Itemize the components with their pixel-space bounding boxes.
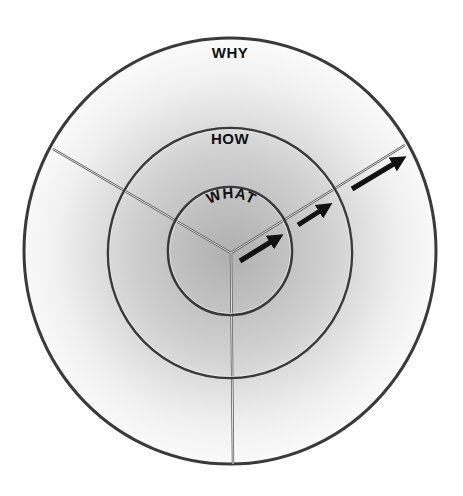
golden-circle-diagram: WHY HOW WHAT <box>0 0 463 496</box>
how-label: HOW <box>211 130 250 147</box>
why-label: WHY <box>212 44 249 61</box>
why-ring <box>24 38 436 464</box>
